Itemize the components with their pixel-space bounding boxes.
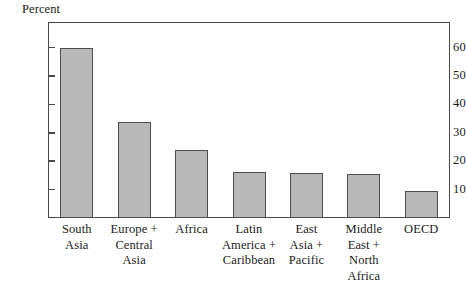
bar-group [290,22,323,218]
x-axis-label-line: North [321,253,407,269]
bar-group [405,22,438,218]
x-axis-label-line: Africa [321,269,407,285]
bar [233,172,266,218]
bar-group [118,22,151,218]
bar [290,173,323,218]
bar [60,48,93,218]
bar-chart-figure: Percent 102030405060 SouthAsiaEurope +Ce… [0,0,466,295]
bar-group [347,22,380,218]
bar-group [233,22,266,218]
bar [118,122,151,218]
x-axis-label-line: OECD [378,222,464,238]
bar [405,191,438,218]
x-axis-label-line: East + [321,238,407,254]
bars-layer [48,22,450,218]
bar [175,150,208,218]
x-axis-labels: SouthAsiaEurope +CentralAsiaAfricaLatinA… [48,222,450,295]
bar-group [175,22,208,218]
x-axis-tick-label: OECD [378,222,464,238]
bar [347,174,380,218]
x-axis-label-line: Central [91,238,177,254]
x-axis-label-line: Asia [91,253,177,269]
y-axis-unit-label: Percent [22,2,60,16]
bar-group [60,22,93,218]
